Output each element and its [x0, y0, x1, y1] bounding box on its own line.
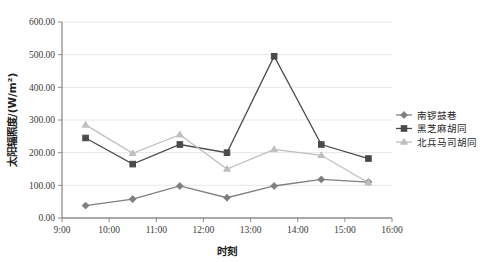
x-tick-label: 9:00	[54, 225, 71, 235]
data-point	[271, 146, 278, 152]
x-tick-label: 14:00	[287, 225, 309, 235]
data-point	[271, 54, 277, 60]
data-point	[224, 194, 231, 201]
data-point	[224, 150, 230, 156]
series-1	[82, 176, 372, 209]
data-point	[130, 161, 136, 167]
legend-marker-square	[401, 126, 407, 132]
legend-label: 黑芝麻胡同	[417, 123, 467, 134]
data-point	[177, 142, 183, 148]
x-axis-title: 时刻	[217, 245, 237, 257]
y-tick-label: 100.00	[29, 181, 55, 191]
y-tick-label: 200.00	[29, 148, 55, 158]
data-point	[176, 131, 183, 137]
data-point	[318, 176, 325, 183]
data-point	[83, 135, 89, 141]
x-tick-label: 16:00	[381, 225, 403, 235]
y-tick-label: 0.00	[38, 213, 55, 223]
x-axis-tick-labels: 9:0010:0011:0012:0013:0014:0015:0016:00	[54, 218, 404, 235]
data-point	[176, 183, 183, 190]
data-point	[271, 183, 278, 190]
data-point	[318, 142, 324, 148]
gridlines	[62, 22, 392, 185]
legend-item-1[interactable]: 南锣鼓巷	[396, 110, 457, 121]
x-tick-label: 10:00	[98, 225, 120, 235]
y-axis-tick-labels: 0.00100.00200.00300.00400.00500.00600.00	[29, 17, 62, 223]
legend-marker-diamond	[401, 112, 408, 119]
data-point	[129, 196, 136, 203]
data-point	[82, 202, 89, 209]
y-tick-label: 600.00	[29, 17, 55, 27]
x-tick-label: 11:00	[146, 225, 168, 235]
x-tick-label: 15:00	[334, 225, 356, 235]
legend-item-2[interactable]: 黑芝麻胡同	[396, 123, 467, 134]
chart-legend: 南锣鼓巷黑芝麻胡同北兵马司胡同	[396, 110, 477, 148]
x-tick-label: 12:00	[193, 225, 215, 235]
data-point	[366, 156, 372, 162]
y-axis-title: 太阳辐照度/(W/m²)	[6, 73, 18, 168]
data-point	[82, 122, 89, 128]
solar-irradiance-line-chart: 0.00100.00200.00300.00400.00500.00600.00…	[0, 0, 483, 262]
y-tick-label: 300.00	[29, 115, 55, 125]
chart-canvas: 0.00100.00200.00300.00400.00500.00600.00…	[0, 0, 483, 262]
legend-label: 南锣鼓巷	[417, 110, 457, 121]
legend-item-3[interactable]: 北兵马司胡同	[396, 137, 477, 148]
legend-label: 北兵马司胡同	[417, 137, 477, 148]
y-tick-label: 400.00	[29, 83, 55, 93]
x-tick-label: 13:00	[240, 225, 262, 235]
y-tick-label: 500.00	[29, 50, 55, 60]
